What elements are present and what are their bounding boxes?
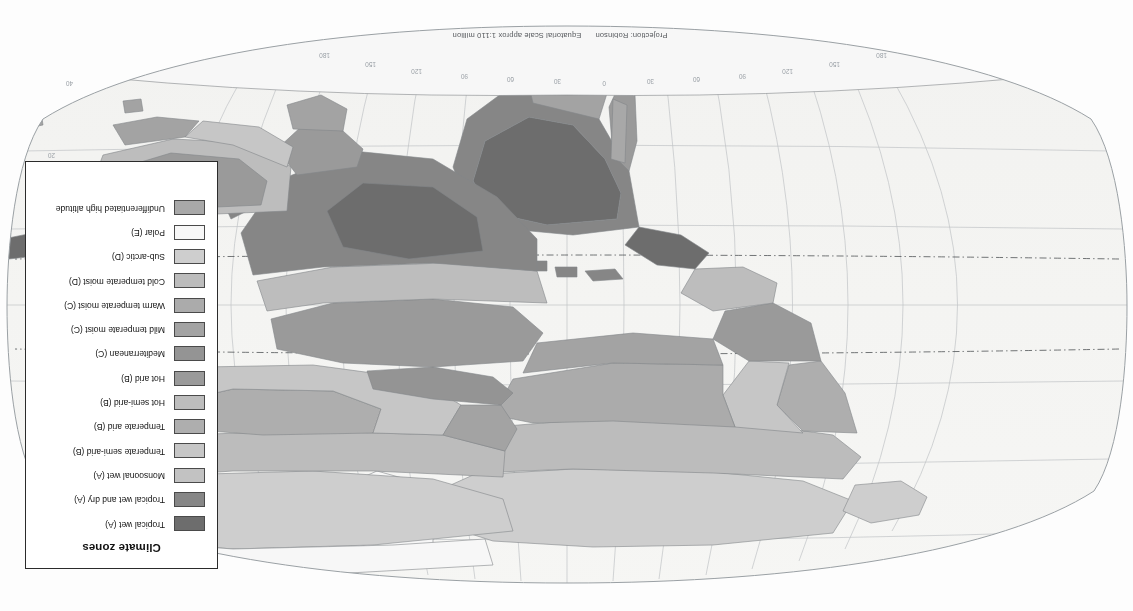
legend-swatch [174, 516, 205, 531]
lon-label-180w: 180 [876, 52, 887, 59]
legend-swatch [174, 249, 205, 264]
legend-swatch [174, 371, 205, 386]
legend-swatch [174, 346, 205, 361]
legend-item-label: Temperate semi-arid (B) [73, 446, 165, 455]
lon-label-120e: 120 [411, 68, 422, 75]
legend-item-label: Sub-arctic (D) [112, 252, 165, 261]
legend-panel: Climate zones Tropical wet (A)Tropical w… [25, 161, 218, 569]
legend-swatch [174, 225, 205, 240]
lon-label-30e: 30 [554, 78, 561, 85]
legend-swatch [174, 395, 205, 410]
legend-item: Monsoonal wet (A) [26, 463, 217, 487]
legend-swatch [174, 419, 205, 434]
region-caribbean-2 [555, 267, 577, 277]
lon-label-0: 0 [602, 80, 606, 87]
legend-item: Sub-arctic (D) [26, 244, 217, 268]
lon-label-60e: 60 [507, 76, 514, 83]
projection-scale: Equatorial Scale approx 1:110 million [452, 31, 581, 40]
lon-label-120w: 120 [782, 68, 793, 75]
lat-label-40s: 40 [66, 80, 73, 87]
legend-item-label: Hot arid (B) [121, 373, 165, 382]
legend-swatch [174, 298, 205, 313]
lon-label-30w: 30 [647, 78, 654, 85]
lon-label-90w: 90 [739, 73, 746, 80]
legend-item: Mild temperate moist (C) [26, 317, 217, 341]
lon-label-90e: 90 [461, 73, 468, 80]
legend-item-label: Monsoonal wet (A) [93, 471, 165, 480]
legend-swatch [174, 468, 205, 483]
legend-item: Hot semi-arid (B) [26, 390, 217, 414]
legend-item: Cold temperate moist (D) [26, 269, 217, 293]
climate-zones-figure: 180 150 120 90 60 30 0 30 60 90 120 150 … [0, 0, 1133, 611]
lat-label-20s: 20 [48, 152, 55, 159]
legend-swatch [174, 201, 205, 216]
legend-swatch [174, 492, 205, 507]
legend-item: Tropical wet (A) [26, 512, 217, 536]
rotated-figure-container: 180 150 120 90 60 30 0 30 60 90 120 150 … [0, 0, 1133, 611]
lon-label-180e: 180 [319, 52, 330, 59]
legend-item-label: Tropical wet and dry (A) [74, 495, 165, 504]
legend-item: Warm temperate moist (C) [26, 293, 217, 317]
legend-item: Undifferentiated high altitude [26, 196, 217, 220]
legend-item-label: Warm temperate moist (C) [64, 300, 165, 309]
legend-item: Temperate arid (B) [26, 415, 217, 439]
lon-label-150w: 150 [829, 61, 840, 68]
projection-name: Projection: Robinson [595, 31, 667, 40]
legend-item-label: Polar (E) [131, 228, 165, 237]
legend-item-label: Mediterranean (C) [95, 349, 165, 358]
legend-item-label: Cold temperate moist (D) [69, 276, 165, 285]
region-tasmania [123, 99, 143, 113]
projection-note: Projection: RobinsonEquatorial Scale app… [430, 31, 690, 40]
legend-title: Climate zones [26, 542, 217, 568]
legend-item-label: Tropical wet (A) [105, 519, 165, 528]
legend-item-label: Mild temperate moist (C) [71, 325, 165, 334]
legend-item-label: Temperate arid (B) [94, 422, 165, 431]
legend-item-list: Tropical wet (A)Tropical wet and dry (A)… [26, 196, 217, 536]
legend-swatch [174, 443, 205, 458]
lon-label-60w: 60 [693, 76, 700, 83]
legend-item: Mediterranean (C) [26, 342, 217, 366]
legend-swatch [174, 322, 205, 337]
region-high-altitude-andes [611, 99, 627, 163]
legend-item: Temperate semi-arid (B) [26, 439, 217, 463]
legend-item: Polar (E) [26, 220, 217, 244]
legend-item-label: Undifferentiated high altitude [56, 203, 165, 212]
legend-item-label: Hot semi-arid (B) [100, 398, 165, 407]
region-new-zealand [13, 99, 43, 129]
legend-item: Tropical wet and dry (A) [26, 487, 217, 511]
legend-item: Hot arid (B) [26, 366, 217, 390]
lon-label-150e: 150 [365, 61, 376, 68]
legend-swatch [174, 273, 205, 288]
